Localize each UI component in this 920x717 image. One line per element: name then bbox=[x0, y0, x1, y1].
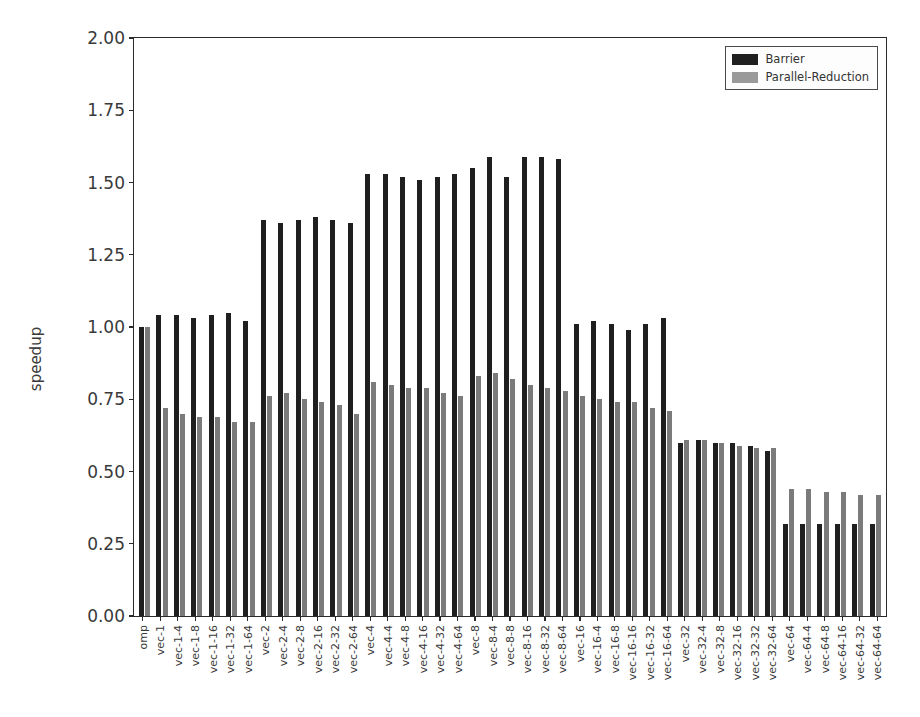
bar-parallel-reduction bbox=[145, 327, 150, 616]
x-tick-mark bbox=[387, 616, 388, 621]
bar-group bbox=[536, 38, 553, 616]
x-tick-label: vec-4-16 bbox=[417, 625, 428, 673]
plot-area: 0.000.250.500.751.001.251.501.752.00 omp… bbox=[133, 37, 887, 617]
bar-group bbox=[327, 38, 344, 616]
x-tick-mark bbox=[474, 616, 475, 621]
x-tick-label: vec-32 bbox=[679, 625, 690, 662]
bar-group bbox=[432, 38, 449, 616]
bar-barrier bbox=[852, 524, 857, 616]
bar-barrier bbox=[226, 313, 231, 616]
x-tick-label: omp bbox=[137, 625, 148, 649]
bar-barrier bbox=[661, 318, 666, 616]
bar-barrier bbox=[174, 315, 179, 616]
bar-barrier bbox=[522, 157, 527, 617]
x-tick-mark bbox=[212, 616, 213, 621]
bar-group bbox=[727, 38, 744, 616]
x-tick-label: vec-8-4 bbox=[487, 625, 498, 666]
x-tick-mark bbox=[317, 616, 318, 621]
x-tick-label: vec-1-8 bbox=[190, 625, 201, 666]
bar-group bbox=[171, 38, 188, 616]
x-tick-mark bbox=[160, 616, 161, 621]
y-tick-label: 0.50 bbox=[87, 463, 134, 480]
bar-group bbox=[849, 38, 866, 616]
x-tick-mark bbox=[230, 616, 231, 621]
bar-group bbox=[501, 38, 518, 616]
x-tick-label: vec-16-4 bbox=[592, 625, 603, 673]
x-tick-label: vec-64-4 bbox=[802, 625, 813, 673]
bar-group bbox=[606, 38, 623, 616]
bar-group bbox=[188, 38, 205, 616]
bar-barrier bbox=[191, 318, 196, 616]
x-tick-label: vec-32-64 bbox=[767, 625, 778, 680]
bar-barrier bbox=[765, 451, 770, 616]
x-tick-mark bbox=[842, 616, 843, 621]
bar-barrier bbox=[156, 315, 161, 616]
x-tick-label: vec-2-32 bbox=[330, 625, 341, 673]
bar-barrier bbox=[817, 524, 822, 616]
bar-group bbox=[362, 38, 379, 616]
bar-barrier bbox=[678, 443, 683, 616]
x-tick-label: vec-1-64 bbox=[242, 625, 253, 673]
bar-barrier bbox=[435, 177, 440, 616]
bar-barrier bbox=[713, 443, 718, 616]
bar-group bbox=[588, 38, 605, 616]
x-tick-mark bbox=[702, 616, 703, 621]
x-tick-label: vec-64-32 bbox=[854, 625, 865, 680]
x-tick-mark bbox=[177, 616, 178, 621]
x-tick-mark bbox=[859, 616, 860, 621]
bar-barrier bbox=[417, 180, 422, 616]
bar-barrier bbox=[365, 174, 370, 616]
x-tick-label: vec-16 bbox=[574, 625, 585, 662]
bar-group bbox=[675, 38, 692, 616]
bar-parallel-reduction bbox=[702, 440, 707, 616]
bar-group bbox=[153, 38, 170, 616]
y-tick-label: 0.00 bbox=[87, 608, 134, 625]
x-tick-mark bbox=[247, 616, 248, 621]
x-tick-label: vec-8-32 bbox=[539, 625, 550, 673]
x-tick-label: vec-1-16 bbox=[207, 625, 218, 673]
bar-parallel-reduction bbox=[337, 405, 342, 616]
x-tick-label: vec-2-4 bbox=[277, 625, 288, 666]
bar-parallel-reduction bbox=[737, 446, 742, 617]
bar-parallel-reduction bbox=[615, 402, 620, 616]
bar-parallel-reduction bbox=[406, 388, 411, 616]
bar-group bbox=[345, 38, 362, 616]
x-tick-label: vec-32-4 bbox=[697, 625, 708, 673]
x-tick-mark bbox=[282, 616, 283, 621]
x-tick-label: vec-16-32 bbox=[644, 625, 655, 680]
bar-parallel-reduction bbox=[493, 373, 498, 616]
bar-parallel-reduction bbox=[771, 448, 776, 616]
x-tick-mark bbox=[142, 616, 143, 621]
x-tick-mark bbox=[579, 616, 580, 621]
x-tick-label: vec-64-16 bbox=[837, 625, 848, 680]
bar-group bbox=[640, 38, 657, 616]
x-tick-label: vec-16-16 bbox=[627, 625, 638, 680]
bar-parallel-reduction bbox=[684, 440, 689, 616]
bar-group bbox=[258, 38, 275, 616]
x-tick-mark bbox=[667, 616, 668, 621]
bar-parallel-reduction bbox=[371, 382, 376, 616]
bar-group bbox=[623, 38, 640, 616]
bar-parallel-reduction bbox=[876, 495, 881, 616]
x-tick-label: vec-4-32 bbox=[435, 625, 446, 673]
x-tick-mark bbox=[632, 616, 633, 621]
bar-parallel-reduction bbox=[841, 492, 846, 616]
bar-group bbox=[223, 38, 240, 616]
x-tick-label: vec-8-8 bbox=[505, 625, 516, 666]
x-tick-mark bbox=[439, 616, 440, 621]
x-tick-mark bbox=[772, 616, 773, 621]
bar-group bbox=[136, 38, 153, 616]
x-tick-mark bbox=[649, 616, 650, 621]
x-tick-mark bbox=[195, 616, 196, 621]
bars-layer bbox=[134, 38, 886, 616]
bar-parallel-reduction bbox=[250, 422, 255, 616]
bar-parallel-reduction bbox=[319, 402, 324, 616]
bar-parallel-reduction bbox=[354, 414, 359, 616]
x-tick-mark bbox=[370, 616, 371, 621]
bar-barrier bbox=[452, 174, 457, 616]
bar-barrier bbox=[556, 159, 561, 616]
bar-group bbox=[519, 38, 536, 616]
x-tick-label: vec-64-8 bbox=[819, 625, 830, 673]
x-tick-label: vec-4-8 bbox=[400, 625, 411, 666]
bar-group bbox=[310, 38, 327, 616]
